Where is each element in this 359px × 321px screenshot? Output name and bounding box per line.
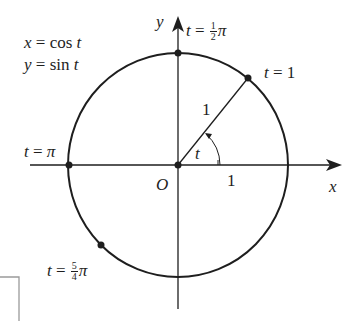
x-tick-label: 1 (227, 172, 236, 189)
unit-circle-diagram: x = cos t y = sin t y x O 1 1 t t = 12π … (0, 0, 359, 321)
fraction-five-quarters: 54 (71, 261, 78, 282)
label-t-pi: t = π (24, 143, 55, 160)
origin-label: O (156, 176, 168, 193)
equation-y: y = sin t (24, 56, 78, 73)
x-axis-label: x (329, 178, 337, 195)
point-t-1 (245, 75, 252, 82)
origin-point (175, 162, 182, 169)
label-t-half-pi: t = 12π (186, 22, 226, 43)
fraction-one-half: 12 (210, 21, 217, 42)
point-t-five-quarter-pi (98, 242, 105, 249)
point-t-half-pi (175, 50, 182, 57)
angle-label: t (195, 145, 200, 162)
label-t-five-quarter-pi: t = 54π (47, 262, 87, 283)
angle-arrow-icon (205, 133, 212, 139)
label-t-1: t = 1 (264, 64, 295, 81)
radius-label: 1 (202, 101, 211, 118)
frame-fragment (0, 277, 19, 321)
y-axis-label: y (156, 13, 164, 30)
equation-x: x = cos t (24, 34, 81, 51)
radius-line (178, 78, 248, 165)
point-t-pi (66, 162, 73, 169)
